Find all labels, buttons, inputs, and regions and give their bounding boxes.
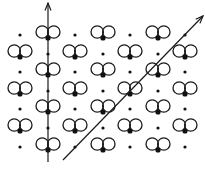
lattice-dot bbox=[128, 70, 131, 73]
lattice-dot bbox=[128, 107, 131, 110]
center-atom bbox=[100, 35, 105, 40]
lattice-dot bbox=[18, 33, 21, 36]
dumbbell-molecule bbox=[173, 45, 197, 60]
direction-arrows bbox=[45, 3, 203, 162]
dumbbell-molecule bbox=[91, 138, 115, 153]
dumbbell-molecule bbox=[8, 45, 32, 60]
dumbbell-molecule bbox=[146, 26, 170, 41]
lattice-svg bbox=[0, 0, 205, 169]
lattice-dot bbox=[128, 33, 131, 36]
center-atom bbox=[127, 54, 132, 59]
lattice-dot bbox=[73, 70, 76, 73]
dumbbell-molecule bbox=[118, 119, 142, 134]
dumbbell-molecule bbox=[63, 119, 87, 134]
center-atom bbox=[17, 91, 22, 96]
center-atom bbox=[155, 109, 160, 114]
center-atom bbox=[17, 54, 22, 59]
dumbbell-molecule bbox=[173, 119, 197, 134]
lattice-dot bbox=[18, 145, 21, 148]
center-atom bbox=[127, 128, 132, 133]
lattice-dot bbox=[18, 70, 21, 73]
center-atom bbox=[155, 147, 160, 152]
lattice-dot bbox=[183, 107, 186, 110]
center-atom bbox=[100, 147, 105, 152]
dumbbell-molecule bbox=[91, 26, 115, 41]
dumbbell-molecule bbox=[146, 100, 170, 115]
center-atom bbox=[17, 128, 22, 133]
dumbbell-molecule bbox=[8, 119, 32, 134]
lattice-dot bbox=[73, 107, 76, 110]
center-atom bbox=[100, 72, 105, 77]
lattice-dot bbox=[183, 70, 186, 73]
lattice-dot bbox=[101, 126, 104, 129]
center-atom bbox=[100, 109, 105, 114]
center-atom bbox=[155, 72, 160, 77]
center-atom bbox=[72, 54, 77, 59]
center-atom bbox=[72, 91, 77, 96]
lattice-dot bbox=[101, 89, 104, 92]
diagonal-arrow bbox=[63, 16, 203, 160]
lattice-dot bbox=[183, 145, 186, 148]
lattice-dots bbox=[18, 33, 186, 148]
lattice-diagram bbox=[0, 0, 205, 169]
dumbbell-molecule bbox=[146, 138, 170, 153]
dumbbell-molecules bbox=[8, 26, 197, 153]
lattice-dot bbox=[18, 107, 21, 110]
lattice-dot bbox=[101, 52, 104, 55]
dumbbell-molecule bbox=[63, 82, 87, 97]
center-atom bbox=[182, 91, 187, 96]
lattice-dot bbox=[156, 89, 159, 92]
lattice-dot bbox=[156, 126, 159, 129]
center-atom bbox=[155, 35, 160, 40]
dumbbell-molecule bbox=[173, 82, 197, 97]
dumbbell-molecule bbox=[118, 82, 142, 97]
dumbbell-molecule bbox=[63, 45, 87, 60]
center-atom bbox=[182, 128, 187, 133]
dumbbell-molecule bbox=[118, 45, 142, 60]
dumbbell-molecule bbox=[91, 63, 115, 78]
center-atom bbox=[72, 128, 77, 133]
dumbbell-molecule bbox=[91, 100, 115, 115]
lattice-dot bbox=[128, 145, 131, 148]
dumbbell-molecule bbox=[8, 82, 32, 97]
lattice-dot bbox=[73, 33, 76, 36]
lattice-dot bbox=[156, 52, 159, 55]
center-atom bbox=[182, 54, 187, 59]
